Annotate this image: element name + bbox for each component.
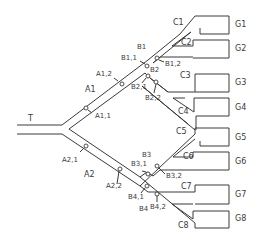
label-g8: G8 xyxy=(235,214,246,223)
label-g4: G4 xyxy=(235,103,246,112)
probe-leaders xyxy=(80,60,165,202)
probe-b4-1 xyxy=(145,184,149,188)
probe-b3-2 xyxy=(155,164,159,168)
label-c2: C2 xyxy=(181,38,192,47)
label-b4-1: B4,1 xyxy=(128,193,144,201)
label-a1: A1 xyxy=(85,85,96,94)
label-b2: B2 xyxy=(150,66,159,74)
probe-b1-2 xyxy=(155,56,159,60)
probe-a2-2 xyxy=(118,167,122,171)
label-b4-2: B4,2 xyxy=(150,203,166,211)
label-b1-2: B1,2 xyxy=(165,60,181,68)
label-c3: C3 xyxy=(180,71,191,80)
trunk-channel xyxy=(17,125,62,134)
label-a1-1: A1,1 xyxy=(95,112,111,120)
label-c8: C8 xyxy=(178,221,189,230)
terminal-g4 xyxy=(194,98,229,130)
label-g1: G1 xyxy=(235,20,246,29)
channel-c8 xyxy=(172,204,193,219)
label-trunk: T xyxy=(27,114,33,123)
terminal-g8 xyxy=(193,211,229,228)
label-g7: G7 xyxy=(235,190,246,199)
label-b1: B1 xyxy=(137,43,146,51)
probe-a1-1 xyxy=(84,106,88,110)
tree-network-diagram: T xyxy=(0,0,255,248)
label-c4: C4 xyxy=(178,107,189,116)
label-b1-1: B1,1 xyxy=(121,54,137,62)
label-a2: A2 xyxy=(84,170,95,179)
terminal-g3 xyxy=(195,74,229,92)
label-b3: B3 xyxy=(142,151,151,159)
probe-b2-1 xyxy=(146,74,150,78)
label-b3-1: B3,1 xyxy=(131,160,147,168)
label-c5: C5 xyxy=(176,127,187,136)
probe-a2-1 xyxy=(84,144,88,148)
label-c1: C1 xyxy=(173,18,184,27)
branch-b1 xyxy=(148,34,180,63)
probe-b4-2 xyxy=(155,192,159,196)
terminal-g1 xyxy=(195,16,229,34)
label-a2-2: A2,2 xyxy=(106,182,122,190)
terminal-g7 xyxy=(163,185,229,204)
label-g3: G3 xyxy=(235,78,246,87)
label-g2: G2 xyxy=(235,44,246,53)
label-b4: B4 xyxy=(139,205,149,213)
probe-b2-2 xyxy=(154,80,158,84)
label-c6: C6 xyxy=(183,152,194,161)
label-b2-2: B2,2 xyxy=(145,94,161,102)
label-a1-2: A1,2 xyxy=(96,70,112,78)
label-g6: G6 xyxy=(235,157,246,166)
probe-a1-2 xyxy=(120,82,124,86)
label-g5: G5 xyxy=(235,133,246,142)
label-c7: C7 xyxy=(181,182,192,191)
probe-b1-1 xyxy=(145,64,149,68)
label-b3-2: B3,2 xyxy=(166,172,182,180)
probe-b3-1 xyxy=(146,172,150,176)
terminal-g5 xyxy=(195,128,229,146)
label-a2-1: A2,1 xyxy=(62,156,78,164)
label-b2-1: B2,1 xyxy=(131,83,147,91)
